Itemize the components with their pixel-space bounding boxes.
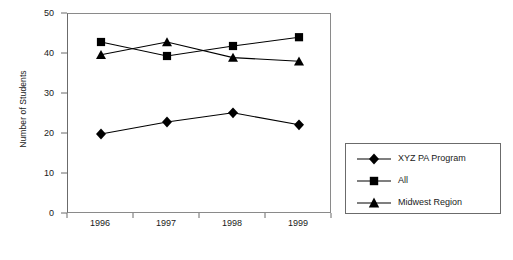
- series-line: [101, 113, 299, 134]
- data-point-diamond: [228, 107, 238, 118]
- y-tick-label: 50: [14, 9, 54, 18]
- plot-area: [67, 13, 331, 213]
- data-point-diamond: [96, 129, 106, 140]
- plot-svg: [68, 14, 332, 214]
- legend-item-all[interactable]: All: [346, 170, 500, 192]
- series-xyz-pa-program: [96, 107, 304, 139]
- chart-legend: XYZ PA Program All Midwest Region: [345, 143, 501, 214]
- y-tick-label: 0: [14, 209, 54, 218]
- series-line: [101, 37, 299, 56]
- data-point-square: [295, 33, 303, 41]
- diamond-marker-icon: [356, 148, 392, 170]
- legend-item-xyz-pa-program[interactable]: XYZ PA Program: [346, 148, 500, 170]
- series-line: [101, 42, 299, 61]
- y-tick-label: 20: [14, 129, 54, 138]
- y-axis-tick-labels: 01020304050: [0, 0, 67, 260]
- x-tick-label: 1996: [70, 219, 130, 228]
- legend-label: XYZ PA Program: [398, 153, 466, 163]
- legend-label: Midwest Region: [398, 197, 462, 207]
- x-tick-label: 1998: [202, 219, 262, 228]
- data-point-square: [97, 38, 105, 46]
- chart-figure: Number of Students 01020304050 199619971…: [0, 0, 513, 260]
- data-point-square: [163, 52, 171, 60]
- x-tick-label: 1999: [268, 219, 328, 228]
- legend-label: All: [398, 175, 408, 185]
- x-tick-label: 1997: [136, 219, 196, 228]
- data-point-diamond: [294, 119, 304, 130]
- y-tick-label: 40: [14, 49, 54, 58]
- data-point-diamond: [162, 117, 172, 128]
- triangle-marker-icon: [356, 192, 392, 214]
- legend-item-midwest-region[interactable]: Midwest Region: [346, 192, 500, 214]
- data-point-triangle: [162, 37, 172, 46]
- series-all: [97, 33, 303, 60]
- y-tick-label: 30: [14, 89, 54, 98]
- y-tick-label: 10: [14, 169, 54, 178]
- square-marker-icon: [356, 170, 392, 192]
- data-point-square: [229, 42, 237, 50]
